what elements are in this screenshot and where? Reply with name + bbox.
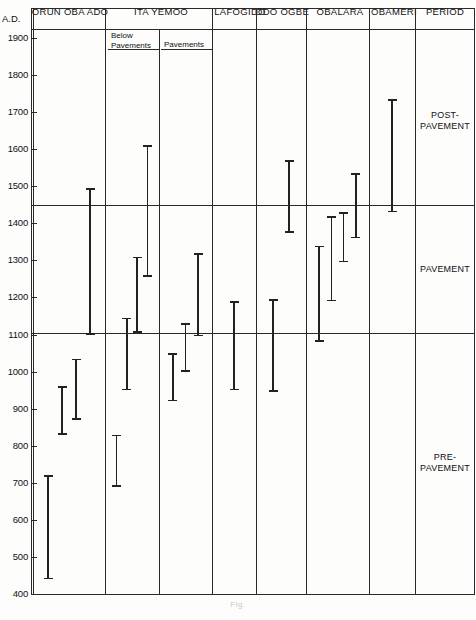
- date-range-cap-upper: [168, 353, 177, 355]
- period-label-line1: PAVEMENT: [416, 264, 474, 275]
- period-label-line1: POST-: [416, 110, 474, 121]
- date-range-cap-upper: [269, 299, 278, 301]
- y-axis-tick-label: 1600: [0, 143, 28, 154]
- date-range-cap-upper: [44, 475, 53, 477]
- date-range-cap-lower: [327, 300, 336, 302]
- date-range-bar: [75, 359, 77, 420]
- date-range-bar: [343, 212, 345, 262]
- date-range-bar: [331, 216, 333, 301]
- subheader-pavements: Pavements: [161, 30, 213, 50]
- date-range-cap-lower: [122, 389, 131, 391]
- date-range-cap-lower: [112, 485, 121, 487]
- period-label-line2: PAVEMENT: [416, 463, 474, 474]
- date-range-cap-lower: [388, 211, 397, 213]
- date-range-bar: [172, 353, 174, 401]
- date-range-bar: [391, 99, 393, 212]
- col-sep-4: [306, 8, 307, 595]
- period-label: POST-PAVEMENT: [416, 110, 474, 132]
- period-label: PRE-PAVEMENT: [416, 452, 474, 474]
- subheader-below-line2: Pavements: [111, 41, 151, 50]
- date-range-bar: [197, 253, 199, 336]
- y-axis-tick-label: 1100: [0, 329, 28, 340]
- y-axis-tick-label: 1500: [0, 180, 28, 191]
- date-range-cap-upper: [133, 257, 142, 259]
- col-sep-3: [256, 8, 257, 595]
- date-range-cap-lower: [133, 331, 142, 333]
- header-obalara: OBALARA: [307, 0, 373, 22]
- y-axis-tick-label: 700: [0, 477, 28, 488]
- date-range-cap-lower: [269, 390, 278, 392]
- date-range-cap-upper: [351, 173, 360, 175]
- date-range-cap-upper: [72, 359, 81, 361]
- date-range-cap-lower: [181, 370, 190, 372]
- figure-caption: Fig.: [0, 600, 476, 609]
- col-sep-axis: [33, 8, 34, 595]
- header-odo-ogbe: ODO OGBE: [256, 0, 308, 22]
- date-range-cap-upper: [194, 253, 203, 255]
- period-label-line1: PRE-: [416, 452, 474, 463]
- date-range-cap-lower: [194, 335, 203, 337]
- date-range-cap-upper: [327, 216, 336, 218]
- header-obameri: OBAMERI: [370, 0, 418, 22]
- date-range-cap-lower: [168, 400, 177, 402]
- subheader-below-line1: Below: [111, 31, 133, 40]
- date-range-bar: [61, 386, 63, 434]
- date-range-cap-upper: [122, 318, 131, 320]
- date-range-cap-upper: [58, 386, 67, 388]
- date-range-bar: [288, 160, 290, 232]
- date-range-cap-upper: [181, 323, 190, 325]
- col-sep-1: [105, 8, 106, 595]
- y-axis-tick-label: 1700: [0, 106, 28, 117]
- period-divider: [31, 333, 475, 334]
- col-sep-2: [212, 8, 213, 595]
- y-axis-tick-label: 1400: [0, 217, 28, 228]
- y-axis-line: [31, 38, 32, 595]
- date-range-bar: [272, 299, 274, 392]
- y-axis-tick-label: 500: [0, 551, 28, 562]
- date-range-cap-lower: [143, 275, 152, 277]
- date-range-cap-lower: [315, 340, 324, 342]
- chronology-figure: 1900180017001600150014001300120011001000…: [0, 0, 476, 620]
- date-range-bar: [89, 188, 91, 334]
- date-range-cap-lower: [351, 237, 360, 239]
- date-range-bar: [147, 145, 149, 277]
- date-range-cap-upper: [143, 145, 152, 147]
- y-axis-tick-label: 800: [0, 440, 28, 451]
- subheader-below-pavements: Below Pavements: [108, 30, 160, 50]
- date-range-cap-lower: [44, 578, 53, 580]
- date-range-cap-lower: [339, 261, 348, 263]
- y-axis-tick-label: 900: [0, 403, 28, 414]
- axis-unit-label: A.D.: [2, 13, 20, 24]
- col-sep-5: [369, 8, 370, 595]
- date-range-bar: [116, 435, 118, 487]
- col-sep-6: [415, 8, 416, 595]
- y-axis-tick-label: 400: [0, 588, 28, 599]
- date-range-bar: [355, 173, 357, 238]
- y-axis-tick-label: 1200: [0, 291, 28, 302]
- period-divider: [31, 205, 475, 206]
- y-axis-tick-label: 1800: [0, 69, 28, 80]
- date-range-cap-lower: [86, 333, 95, 335]
- date-range-cap-upper: [86, 188, 95, 190]
- date-range-bar: [233, 301, 235, 390]
- date-range-cap-upper: [315, 246, 324, 248]
- header-orun-oba-ado: ORUN OBA ADO: [36, 0, 104, 22]
- period-label-line2: PAVEMENT: [416, 121, 474, 132]
- y-axis-tick-label: 1000: [0, 366, 28, 377]
- header-period: PERIOD: [416, 0, 474, 22]
- date-range-cap-lower: [230, 389, 239, 391]
- date-range-cap-lower: [285, 231, 294, 233]
- header-ita-yemoo: ITA YEMOO: [108, 0, 214, 22]
- y-axis-tick-label: 1300: [0, 254, 28, 265]
- chart-frame: [31, 8, 475, 595]
- date-range-cap-upper: [230, 301, 239, 303]
- y-axis-tick-label: 600: [0, 514, 28, 525]
- date-range-bar: [136, 257, 138, 333]
- date-range-bar: [126, 318, 128, 390]
- date-range-cap-upper: [285, 160, 294, 162]
- date-range-cap-upper: [339, 212, 348, 214]
- date-range-cap-upper: [388, 99, 397, 101]
- y-axis-tick-label: 1900: [0, 32, 28, 43]
- date-range-bar: [185, 323, 187, 371]
- date-range-bar: [318, 246, 320, 342]
